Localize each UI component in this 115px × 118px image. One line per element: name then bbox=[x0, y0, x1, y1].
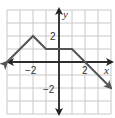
tick-label-x-neg2: −2 bbox=[25, 65, 37, 76]
tick-label-y-neg2: −2 bbox=[43, 84, 55, 95]
tick-label-x-2: 2 bbox=[82, 65, 88, 76]
y-axis-label: y bbox=[62, 8, 68, 20]
coordinate-graph: y x −2 2 2 −2 bbox=[0, 0, 115, 118]
x-axis-label: x bbox=[103, 64, 109, 76]
tick-label-y-2: 2 bbox=[50, 31, 56, 42]
